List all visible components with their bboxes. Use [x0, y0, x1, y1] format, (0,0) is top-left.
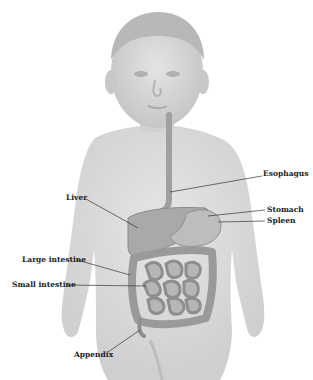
small-intestine-organ [144, 261, 200, 314]
left-ear [105, 70, 117, 94]
label-stomach: Stomach [267, 206, 304, 214]
label-spleen: Spleen [267, 217, 296, 225]
label-large-intestine: Large intestine [22, 256, 86, 264]
label-appendix: Appendix [74, 351, 113, 359]
label-liver: Liver [66, 194, 87, 202]
left-eye [134, 71, 148, 77]
label-small-intestine: Small intestine [12, 281, 76, 289]
right-ear [197, 70, 209, 94]
right-eye [166, 71, 180, 77]
label-esophagus: Esophagus [263, 170, 308, 178]
digestive-system-figure [0, 0, 313, 380]
